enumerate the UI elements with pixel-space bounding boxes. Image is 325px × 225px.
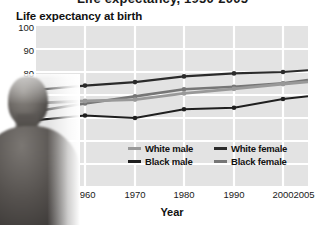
y-tick-label: 90 <box>0 46 34 56</box>
x-tick-label: 2000 <box>272 189 293 200</box>
legend-item-black-female: Black female <box>214 156 300 167</box>
legend-label: White female <box>231 143 287 154</box>
legend-swatch-icon <box>128 160 141 163</box>
x-tick-label: 1970 <box>124 189 145 200</box>
chart-legend: White male White female Black male Black… <box>128 143 300 167</box>
legend-swatch-icon <box>128 147 141 150</box>
x-tick-label: 1980 <box>173 189 194 200</box>
y-tick-label: 40 <box>0 161 34 171</box>
legend-item-white-male: White male <box>128 143 206 154</box>
y-tick-label: 80 <box>0 69 34 79</box>
x-tick-label: 1990 <box>223 189 244 200</box>
x-tick-label: 2005 <box>293 189 314 200</box>
legend-item-white-female: White female <box>214 143 300 154</box>
legend-label: Black male <box>145 156 193 167</box>
chart-title: Life expectancy at birth <box>16 10 142 22</box>
x-axis-title: Year <box>36 206 308 218</box>
x-axis: 1950 1960 1970 1980 1990 2000 2005 <box>36 189 308 203</box>
y-axis: 100 90 80 70 60 50 40 0 <box>0 26 34 186</box>
y-tick-label: 60 <box>0 115 34 125</box>
y-tick-label: 70 <box>0 92 34 102</box>
page-title-text: Life expectancy, 1950-2005 <box>77 0 248 6</box>
legend-label: Black female <box>231 156 287 167</box>
x-tick-label: 1950 <box>29 189 50 200</box>
cropped-page-title: Life expectancy, 1950-2005 <box>0 0 325 9</box>
legend-label: White male <box>145 143 193 154</box>
y-tick-label: 100 <box>0 23 34 33</box>
legend-item-black-male: Black male <box>128 156 206 167</box>
legend-swatch-icon <box>214 147 227 150</box>
chart-screenshot: Life expectancy, 1950-2005 Life expectan… <box>0 0 325 225</box>
page-edge-fade <box>315 0 325 225</box>
x-tick-label: 1960 <box>74 189 95 200</box>
y-tick-label: 50 <box>0 138 34 148</box>
legend-swatch-icon <box>214 160 227 163</box>
